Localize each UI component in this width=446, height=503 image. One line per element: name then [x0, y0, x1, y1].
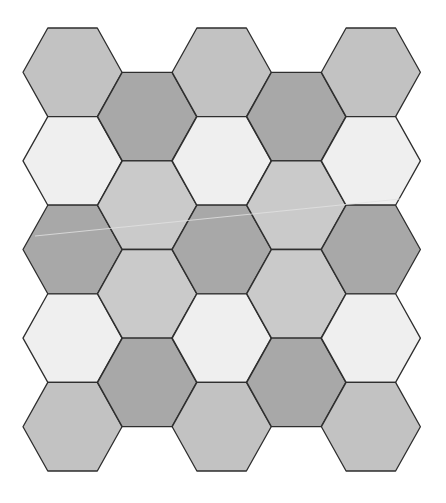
- hexagon-grid: [23, 28, 420, 471]
- hexagon-tessellation: [0, 0, 446, 503]
